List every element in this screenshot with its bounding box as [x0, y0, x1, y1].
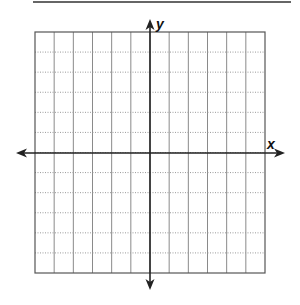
y-axis-label: y: [155, 16, 165, 32]
x-axis-label: x: [266, 136, 276, 152]
coordinate-plane: x y: [0, 0, 300, 305]
